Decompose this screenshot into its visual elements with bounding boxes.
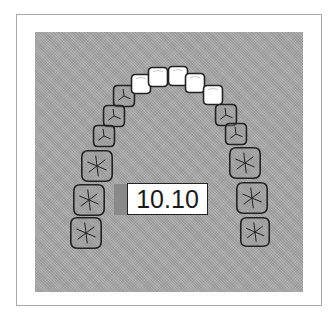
right-third-molar bbox=[71, 218, 101, 248]
right-second-premolar bbox=[94, 126, 115, 147]
right-central-incisor bbox=[149, 68, 168, 87]
figure-label: 10.10 bbox=[127, 183, 208, 215]
left-first-molar bbox=[230, 148, 260, 178]
left-second-molar bbox=[237, 183, 267, 213]
dental-arch bbox=[0, 0, 336, 318]
left-canine bbox=[204, 86, 223, 105]
left-lateral-incisor bbox=[186, 74, 205, 93]
left-first-premolar bbox=[216, 105, 237, 126]
right-second-molar bbox=[74, 185, 104, 215]
left-central-incisor bbox=[169, 67, 188, 86]
right-first-premolar bbox=[104, 106, 125, 127]
right-first-molar bbox=[82, 151, 112, 181]
left-second-premolar bbox=[226, 124, 247, 145]
left-third-molar bbox=[241, 218, 270, 247]
right-lateral-incisor bbox=[132, 75, 151, 94]
